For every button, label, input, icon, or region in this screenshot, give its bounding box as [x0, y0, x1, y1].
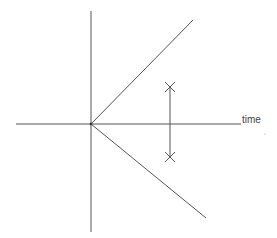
time-axis-label: time — [242, 114, 261, 125]
background — [0, 0, 277, 238]
light-cone-diagram: time — [0, 0, 277, 238]
stray-dot — [264, 133, 265, 134]
origin-point — [90, 123, 93, 126]
